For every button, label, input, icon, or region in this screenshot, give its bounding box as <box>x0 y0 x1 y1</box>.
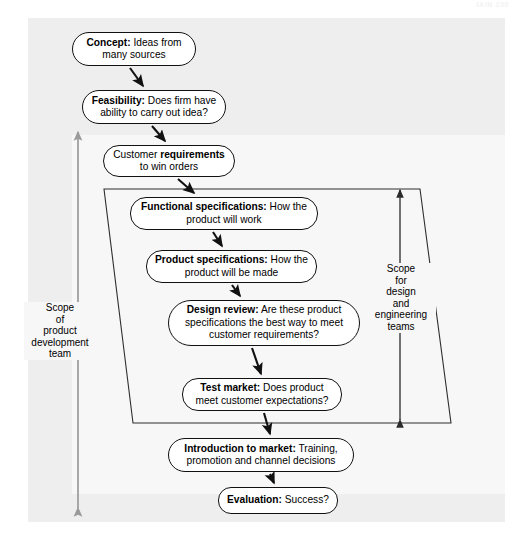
node-functional-specifications-lead: Functional specifications: <box>141 201 267 212</box>
node-introduction-to-market-lead: Introduction to market: <box>184 443 296 454</box>
node-test-market[interactable]: Test market: Does product meet customer … <box>182 378 342 411</box>
node-test-market-lead: Test market: <box>200 382 260 393</box>
node-evaluation-rest: Success? <box>282 494 329 505</box>
scope-left-line-1: of <box>24 314 96 326</box>
node-feasibility[interactable]: Feasibility: Does firm have ability to c… <box>82 90 226 124</box>
arrow-introduction-to-evaluation <box>270 474 274 483</box>
node-introduction-to-market[interactable]: Introduction to market: Training, promot… <box>168 438 354 472</box>
scope-left-line-0: Scope <box>24 302 96 314</box>
node-product-specifications-lead: Product specifications: <box>155 254 268 265</box>
node-feasibility-lead: Feasibility: <box>92 95 145 106</box>
scope-right-line-5: teams <box>366 321 436 333</box>
scope-left-label: Scope of product development team <box>24 302 96 360</box>
scope-right-label: Scope for design and engineering teams <box>366 263 436 333</box>
arrow-design-review-to-test-market <box>252 348 261 374</box>
node-functional-specifications[interactable]: Functional specifications: How the produ… <box>130 197 318 230</box>
node-evaluation[interactable]: Evaluation: Success? <box>218 487 338 514</box>
node-concept[interactable]: Concept: Ideas from many sources <box>72 32 196 66</box>
scope-right-line-0: Scope <box>366 263 436 275</box>
node-customer-requirements-bold: requirements <box>160 149 225 160</box>
arrow-product-to-design-review <box>232 285 240 296</box>
scope-right-line-2: design <box>366 286 436 298</box>
scope-right-line-1: for <box>366 275 436 287</box>
node-evaluation-lead: Evaluation: <box>227 494 282 505</box>
node-design-review[interactable]: Design review: Are these product specifi… <box>168 300 360 346</box>
scope-left-line-3: development <box>24 337 96 349</box>
node-design-review-lead: Design review: <box>187 304 259 315</box>
arrow-requirements-to-functional <box>178 179 194 193</box>
scope-left-line-4: team <box>24 348 96 360</box>
scope-right-line-3: and <box>366 298 436 310</box>
node-customer-requirements[interactable]: Customer requirements to win orders <box>103 145 235 177</box>
arrow-feasibility-to-requirements <box>152 126 165 141</box>
node-concept-lead: Concept: <box>86 37 130 48</box>
diagram-page: IAIN 230 <box>0 0 527 542</box>
arrow-functional-to-product <box>213 232 222 246</box>
node-product-specifications[interactable]: Product specifications: How the product … <box>146 250 317 283</box>
scope-left-line-2: product <box>24 325 96 337</box>
node-customer-requirements-rest: to win orders <box>140 161 198 172</box>
arrow-concept-to-feasibility <box>130 68 143 86</box>
node-customer-requirements-lead: Customer <box>113 149 160 160</box>
scope-right-line-4: engineering <box>366 309 436 321</box>
